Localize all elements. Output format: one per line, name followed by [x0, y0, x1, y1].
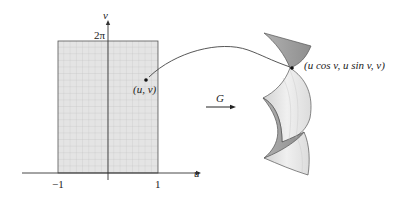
- g-arrow: [206, 105, 236, 109]
- u-tick-neg1: −1: [52, 179, 64, 190]
- domain-point: [144, 78, 148, 82]
- u-tick-1: 1: [155, 179, 161, 190]
- u-axis-label: u: [194, 168, 200, 179]
- v-tick-2pi: 2π: [94, 30, 105, 41]
- mapping-curve: [149, 46, 290, 77]
- domain-point-label: (u, v): [133, 84, 156, 95]
- surface-point: [290, 66, 294, 70]
- surface-point-label: (u cos v, u sin v, v): [304, 60, 385, 71]
- diagram-canvas: [0, 0, 405, 200]
- helicoid-surface: [263, 33, 311, 175]
- map-label-g: G: [216, 93, 224, 104]
- v-axis-label: v: [103, 10, 108, 21]
